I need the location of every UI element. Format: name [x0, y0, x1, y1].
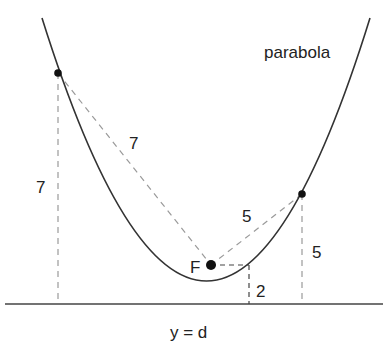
- right-point: [298, 190, 306, 198]
- right-to-focus-label: 5: [242, 207, 251, 226]
- parabola-diagram: parabola 7 7 5 5 F 2 y = d: [0, 0, 386, 353]
- left-to-directrix-label: 7: [36, 178, 45, 197]
- left-point: [54, 69, 62, 77]
- vertex-side-to-directrix-label: 2: [256, 282, 265, 301]
- left-to-focus-dash: [58, 73, 211, 265]
- focus-label: F: [190, 258, 200, 277]
- focus-point: [206, 260, 216, 270]
- right-to-directrix-label: 5: [312, 243, 321, 262]
- directrix-label: y = d: [170, 323, 207, 342]
- curve-label: parabola: [264, 43, 331, 62]
- right-to-focus-dash: [211, 194, 302, 265]
- left-to-focus-label: 7: [129, 134, 138, 153]
